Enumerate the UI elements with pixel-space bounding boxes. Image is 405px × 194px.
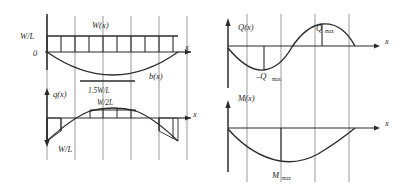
- x-axis-arrowhead-4: [374, 126, 380, 131]
- width-distribution-plot: [45, 14, 191, 81]
- beam-diagram-svg: W/L 0 W(x) b(x) x q(x) 1.5W/L W/2L W/L x…: [0, 0, 405, 194]
- label-M-of-x: M(x): [237, 93, 255, 103]
- curve-q-of-x: [47, 108, 178, 141]
- label-M-max-subscript: max: [282, 175, 291, 181]
- q-left-triangle: [47, 118, 61, 141]
- bending-moment-plot: [225, 100, 380, 172]
- label-x-axis-1: x: [184, 42, 189, 52]
- label-b-of-x: b(x): [149, 71, 163, 81]
- label-W-over-L-bottom: W/L: [58, 144, 72, 154]
- label-x-axis-2: x: [192, 109, 197, 119]
- x-axis-arrowhead-3: [374, 44, 380, 49]
- label-x-axis-3: x: [384, 36, 389, 46]
- M-axis-arrowhead: [225, 100, 230, 108]
- label-neg-Q-max-group: –Q max: [255, 71, 281, 82]
- q-axis-arrowhead-up: [44, 88, 49, 95]
- label-M-max: M: [271, 170, 280, 180]
- Q-axis-arrowhead: [225, 18, 230, 26]
- label-x-axis-4: x: [384, 118, 389, 128]
- x-axis-arrowhead-2: [185, 116, 191, 121]
- label-origin-zero: 0: [33, 48, 38, 58]
- label-neg-Q-max-subscript: max: [272, 76, 281, 82]
- label-Q-max: Q: [316, 23, 322, 33]
- label-1-5-W-over-L: 1.5W/L: [88, 86, 110, 95]
- label-Q-max-subscript: max: [325, 28, 334, 34]
- label-Q-of-x: Q(x): [238, 22, 254, 32]
- label-W-over-2L: W/2L: [97, 98, 113, 107]
- label-neg-Q-max: –Q: [255, 71, 266, 81]
- label-W-of-x: W(x): [92, 20, 109, 30]
- label-W-over-L-top: W/L: [20, 31, 34, 41]
- figure-canvas: W/L 0 W(x) b(x) x q(x) 1.5W/L W/2L W/L x…: [0, 0, 405, 194]
- label-q-of-x: q(x): [53, 89, 67, 99]
- hatch-marks-top: [47, 36, 173, 52]
